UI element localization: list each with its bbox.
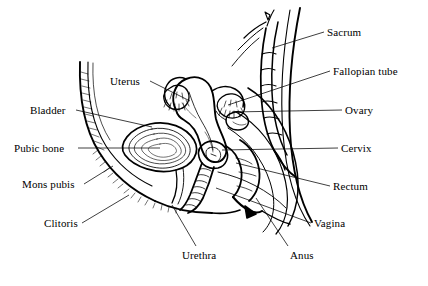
label-ovary: Ovary	[345, 105, 373, 116]
label-rectum: Rectum	[333, 181, 368, 192]
bladder-lumen	[148, 143, 176, 157]
rectum-anterior	[226, 146, 242, 197]
label-sacrum: Sacrum	[327, 27, 361, 38]
body-contour-back-mid	[282, 10, 310, 226]
mons-pubis-hatching	[93, 150, 176, 213]
bladder-outline	[123, 123, 197, 172]
label-urethra: Urethra	[182, 250, 216, 261]
cervix-os	[211, 154, 216, 156]
leader-line-sacrum	[272, 32, 324, 48]
label-cervix: Cervix	[341, 143, 372, 154]
leader-line-ovary	[232, 110, 342, 112]
perineal-body	[212, 210, 240, 213]
bladder-wall-3	[134, 133, 185, 164]
sacrum-upper-process	[267, 10, 274, 26]
rectus-sheath	[93, 63, 110, 140]
leader-line-cervix	[222, 148, 338, 150]
leader-line-fallopian-tube	[228, 71, 330, 105]
urethra-channel-b	[178, 168, 184, 204]
label-clitoris: Clitoris	[44, 218, 78, 229]
leader-line-vagina	[216, 188, 311, 223]
anus-wedge	[245, 206, 256, 218]
label-vagina: Vagina	[314, 218, 345, 229]
leader-line-mons-pubis	[84, 166, 113, 184]
urethra-channel-a	[172, 170, 177, 203]
leader-line-clitoris	[82, 195, 129, 223]
label-pubic-bone: Pubic bone	[14, 143, 64, 154]
sacrum-posterior-border	[272, 22, 287, 155]
label-uterus: Uterus	[110, 76, 140, 87]
label-fallopian-tube: Fallopian tube	[333, 66, 398, 77]
anatomy-diagram: UterusBladderPubic boneMons pubisClitori…	[0, 0, 428, 286]
fallopian-tube-left	[165, 78, 186, 106]
fimbriae-left-fringe	[164, 92, 189, 111]
label-anus: Anus	[290, 250, 314, 261]
ovary-right-shade	[233, 122, 246, 125]
upper-back-contour	[244, 22, 266, 38]
label-mons-pubis: Mons pubis	[22, 179, 75, 190]
ovary-right-outline	[226, 112, 248, 130]
label-bladder: Bladder	[30, 105, 66, 116]
thigh-contour	[218, 172, 286, 208]
